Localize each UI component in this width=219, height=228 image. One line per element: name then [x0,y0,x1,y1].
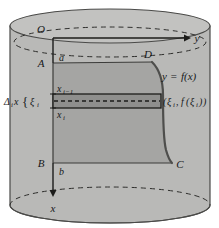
coord-inner-xi: ξ [190,96,195,108]
approximating-strip-group [53,94,161,108]
origin-label: O [37,23,45,35]
coord-xi-subscript: i [173,101,175,109]
vertex-label-c: C [176,158,184,170]
delta-subscript: i [11,101,13,109]
region-abcd-fill [53,62,172,163]
thickness-brace: { [22,94,28,109]
partition-lower-cut-subscript: i [63,114,65,122]
region-abcd-group [53,62,172,163]
partition-upper-cut-symbol: x [56,83,62,94]
vertex-label-a: A [37,57,45,69]
upper-limit-label: a [59,52,64,63]
y-axis-label: y [194,32,200,44]
coord-close-paren: ) [202,96,207,108]
vertex-label-d: D [143,48,152,60]
sample-point-subscript: i [37,101,39,109]
x-axis-label: x [50,202,56,214]
curve-equation-equals: = [170,70,177,82]
delta-symbol: Δ [3,96,10,107]
figure-canvas: O y x A D B C a b x i−1 x i Δ i x [0,0,219,228]
coord-inner-xi-subscript: i [196,101,198,109]
vertex-label-b: B [38,157,45,169]
curve-equation-lhs: y [161,70,167,82]
delta-x-symbol: x [13,96,19,107]
sample-point-symbol: ξ [30,96,35,108]
partition-upper-cut-subscript: i−1 [63,88,73,96]
lower-limit-label: b [59,166,64,177]
solid-of-revolution-figure: O y x A D B C a b x i−1 x i Δ i x [0,0,219,228]
partition-lower-cut-symbol: x [56,109,62,120]
coord-xi: ξ [167,96,172,108]
coord-comma: , [176,96,179,107]
curve-equation-rhs: f(x) [181,70,197,83]
